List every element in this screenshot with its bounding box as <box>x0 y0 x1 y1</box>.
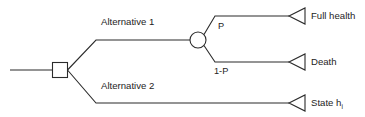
terminal-node-state-triangle[interactable] <box>289 95 305 111</box>
label-terminal-death: Death <box>311 56 337 67</box>
chance-node-circle[interactable] <box>190 32 206 48</box>
edge-alternative-1[interactable] <box>68 40 191 70</box>
terminal-node-death-triangle[interactable] <box>289 54 305 70</box>
label-terminal-full-health: Full health <box>311 10 355 21</box>
label-alternative-2: Alternative 2 <box>101 80 154 91</box>
terminal-node-full-health-triangle[interactable] <box>289 8 305 24</box>
edge-probability-lower[interactable] <box>204 46 289 63</box>
label-terminal-state: State hi <box>311 97 343 110</box>
edge-probability-upper[interactable] <box>204 16 289 35</box>
decision-tree-diagram: Alternative 1 Alternative 2 P 1-P Full h… <box>0 0 365 117</box>
label-probability-upper: P <box>218 21 224 31</box>
label-terminal-state-text: State h <box>311 97 341 108</box>
label-probability-lower: 1-P <box>214 66 228 76</box>
decision-node-square[interactable] <box>53 63 68 78</box>
label-alternative-1: Alternative 1 <box>101 16 154 27</box>
tree-canvas: Alternative 1 Alternative 2 P 1-P Full h… <box>0 0 365 117</box>
label-terminal-state-subscript: i <box>341 103 343 110</box>
